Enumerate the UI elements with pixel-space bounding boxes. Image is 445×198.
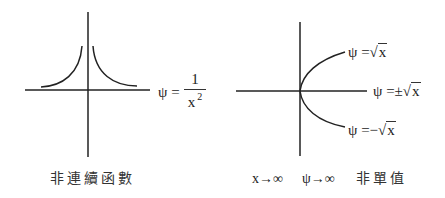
- radicand: x: [411, 82, 421, 99]
- right-label-upper: ψ =√x: [348, 45, 387, 60]
- radicand: x: [378, 43, 388, 60]
- fraction-bar: [184, 89, 206, 90]
- left-caption: 非連續函數: [50, 171, 135, 185]
- sqrt-symbol: √x: [378, 123, 396, 138]
- label-sign: ±: [395, 83, 403, 99]
- asymptote-x: x→∞: [252, 172, 283, 186]
- asymptote-psi: ψ→∞: [302, 172, 335, 186]
- left-curve-positive-branch: [93, 46, 137, 86]
- root-glyph: √: [370, 44, 378, 60]
- right-label-middle: ψ =±√x: [373, 84, 421, 99]
- denominator-exponent: 2: [197, 91, 202, 102]
- left-formula-lhs: ψ =: [158, 85, 180, 100]
- denominator-base: x: [188, 94, 196, 110]
- fraction-numerator: 1: [191, 72, 199, 87]
- right-label-lower: ψ =−√x: [348, 123, 396, 138]
- right-caption: 非單值: [356, 171, 407, 185]
- diagram-canvas: [0, 0, 445, 198]
- left-curve-negative-branch: [41, 46, 82, 87]
- fraction-denominator: x2: [188, 92, 203, 110]
- left-formula-fraction: 1 x2: [184, 72, 206, 110]
- label-lhs: ψ =: [373, 83, 395, 99]
- root-glyph: √: [403, 83, 411, 99]
- label-lhs: ψ =: [348, 122, 370, 138]
- sqrt-symbol: √x: [403, 84, 421, 99]
- label-lhs: ψ =: [348, 44, 370, 60]
- radicand: x: [386, 121, 396, 138]
- label-sign: −: [370, 122, 378, 138]
- sqrt-symbol: √x: [370, 45, 388, 60]
- right-curve-sqrt: [300, 52, 345, 127]
